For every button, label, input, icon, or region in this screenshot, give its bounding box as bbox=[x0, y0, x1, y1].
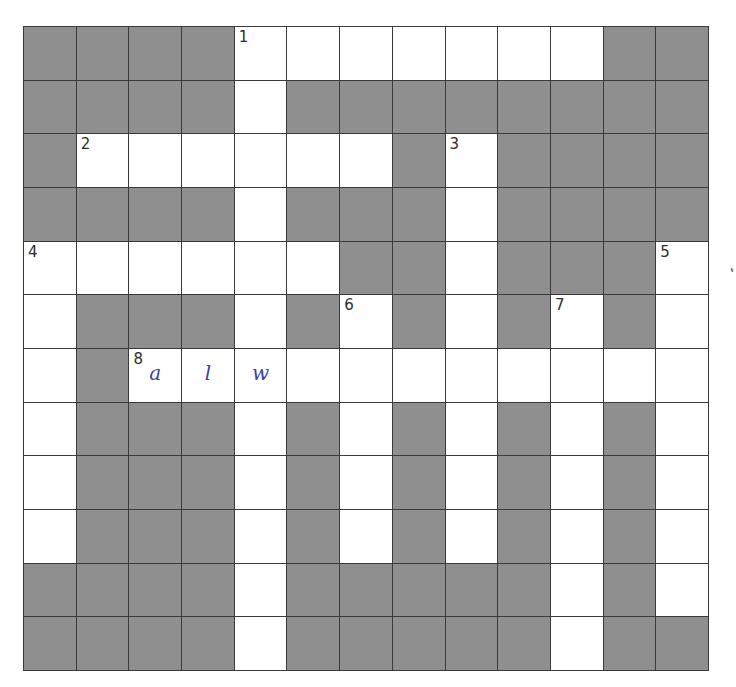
crossword-cell[interactable] bbox=[24, 510, 76, 563]
crossword-cell[interactable] bbox=[551, 564, 603, 617]
crossword-cell[interactable] bbox=[551, 349, 603, 402]
crossword-cell[interactable] bbox=[235, 81, 287, 134]
blocked-cell bbox=[498, 295, 550, 348]
crossword-cell[interactable] bbox=[24, 349, 76, 402]
blocked-cell bbox=[393, 81, 445, 134]
crossword-cell[interactable] bbox=[656, 403, 708, 456]
blocked-cell bbox=[287, 617, 339, 670]
crossword-cell[interactable]: 3 bbox=[446, 134, 498, 187]
blocked-cell bbox=[446, 81, 498, 134]
blocked-cell bbox=[182, 295, 234, 348]
blocked-cell bbox=[604, 617, 656, 670]
crossword-cell[interactable]: l bbox=[182, 349, 234, 402]
crossword-cell[interactable] bbox=[340, 27, 392, 80]
blocked-cell bbox=[498, 242, 550, 295]
clue-number: 4 bbox=[28, 245, 38, 260]
crossword-cell[interactable] bbox=[235, 403, 287, 456]
crossword-cell[interactable] bbox=[656, 349, 708, 402]
crossword-cell[interactable] bbox=[24, 295, 76, 348]
crossword-cell[interactable] bbox=[287, 242, 339, 295]
crossword-cell[interactable] bbox=[235, 295, 287, 348]
blocked-cell bbox=[129, 564, 181, 617]
crossword-cell[interactable] bbox=[235, 617, 287, 670]
blocked-cell bbox=[340, 242, 392, 295]
clue-number: 1 bbox=[239, 30, 249, 45]
clue-number: 7 bbox=[555, 298, 565, 313]
crossword-cell[interactable] bbox=[656, 295, 708, 348]
crossword-cell[interactable] bbox=[551, 510, 603, 563]
blocked-cell bbox=[498, 564, 550, 617]
crossword-cell[interactable] bbox=[446, 188, 498, 241]
blocked-cell bbox=[182, 617, 234, 670]
crossword-cell[interactable] bbox=[656, 510, 708, 563]
blocked-cell bbox=[604, 242, 656, 295]
blocked-cell bbox=[498, 134, 550, 187]
crossword-cell[interactable] bbox=[24, 456, 76, 509]
blocked-cell bbox=[393, 242, 445, 295]
blocked-cell bbox=[393, 134, 445, 187]
blocked-cell bbox=[340, 617, 392, 670]
crossword-cell[interactable] bbox=[604, 349, 656, 402]
crossword-cell[interactable] bbox=[235, 564, 287, 617]
crossword-cell[interactable] bbox=[446, 510, 498, 563]
crossword-cell[interactable] bbox=[182, 134, 234, 187]
blocked-cell bbox=[498, 510, 550, 563]
crossword-cell[interactable] bbox=[235, 134, 287, 187]
crossword-cell[interactable] bbox=[551, 617, 603, 670]
blocked-cell bbox=[498, 456, 550, 509]
crossword-cell[interactable] bbox=[340, 510, 392, 563]
crossword-cell[interactable] bbox=[393, 349, 445, 402]
blocked-cell bbox=[129, 510, 181, 563]
blocked-cell bbox=[24, 617, 76, 670]
crossword-cell[interactable] bbox=[129, 242, 181, 295]
crossword-cell[interactable] bbox=[551, 456, 603, 509]
crossword-cell[interactable] bbox=[235, 242, 287, 295]
blocked-cell bbox=[604, 188, 656, 241]
blocked-cell bbox=[656, 81, 708, 134]
blocked-cell bbox=[182, 564, 234, 617]
blocked-cell bbox=[551, 242, 603, 295]
crossword-cell[interactable]: 2 bbox=[77, 134, 129, 187]
crossword-cell[interactable] bbox=[656, 456, 708, 509]
crossword-cell[interactable]: w bbox=[235, 349, 287, 402]
crossword-cell[interactable] bbox=[498, 349, 550, 402]
crossword-cell[interactable] bbox=[235, 456, 287, 509]
crossword-cell[interactable] bbox=[287, 27, 339, 80]
crossword-cell[interactable]: 5 bbox=[656, 242, 708, 295]
crossword-cell[interactable] bbox=[340, 403, 392, 456]
crossword-cell[interactable] bbox=[446, 456, 498, 509]
crossword-cell[interactable]: 8a bbox=[129, 349, 181, 402]
crossword-cell[interactable] bbox=[235, 510, 287, 563]
crossword-cell[interactable] bbox=[446, 27, 498, 80]
crossword-cell[interactable] bbox=[77, 242, 129, 295]
blocked-cell bbox=[129, 456, 181, 509]
crossword-cell[interactable] bbox=[446, 403, 498, 456]
blocked-cell bbox=[498, 81, 550, 134]
crossword-cell[interactable]: 7 bbox=[551, 295, 603, 348]
crossword-cell[interactable] bbox=[287, 134, 339, 187]
blocked-cell bbox=[656, 617, 708, 670]
crossword-cell[interactable] bbox=[446, 242, 498, 295]
crossword-cell[interactable] bbox=[129, 134, 181, 187]
crossword-cell[interactable]: 6 bbox=[340, 295, 392, 348]
crossword-cell[interactable] bbox=[393, 27, 445, 80]
crossword-cell[interactable] bbox=[340, 456, 392, 509]
crossword-cell[interactable] bbox=[551, 27, 603, 80]
crossword-cell[interactable] bbox=[24, 403, 76, 456]
crossword-cell[interactable] bbox=[182, 242, 234, 295]
blocked-cell bbox=[393, 295, 445, 348]
blocked-cell bbox=[182, 403, 234, 456]
blocked-cell bbox=[182, 188, 234, 241]
crossword-cell[interactable] bbox=[340, 349, 392, 402]
crossword-cell[interactable]: 4 bbox=[24, 242, 76, 295]
crossword-cell[interactable] bbox=[446, 295, 498, 348]
crossword-cell[interactable] bbox=[287, 349, 339, 402]
crossword-cell[interactable] bbox=[446, 349, 498, 402]
crossword-cell[interactable] bbox=[498, 27, 550, 80]
crossword-cell[interactable] bbox=[235, 188, 287, 241]
crossword-cell[interactable] bbox=[551, 403, 603, 456]
crossword-cell[interactable] bbox=[656, 564, 708, 617]
crossword-cell[interactable]: 1 bbox=[235, 27, 287, 80]
blocked-cell bbox=[446, 617, 498, 670]
crossword-cell[interactable] bbox=[340, 134, 392, 187]
